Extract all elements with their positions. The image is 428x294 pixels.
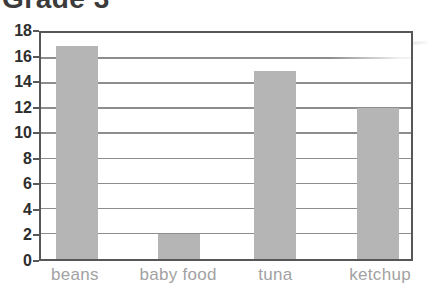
y-tick-mark-12 <box>33 107 39 109</box>
y-tick-mark-14 <box>33 81 39 83</box>
y-tick-label-8: 8 <box>0 151 32 167</box>
y-tick-label-12: 12 <box>0 100 32 116</box>
y-tick-mark-6 <box>33 183 39 185</box>
y-tick-label-18: 18 <box>0 23 32 39</box>
y-tick-mark-2 <box>33 234 39 236</box>
y-tick-label-0: 0 <box>0 253 32 269</box>
y-tick-mark-4 <box>33 209 39 211</box>
y-tick-label-6: 6 <box>0 176 32 192</box>
y-tick-label-2: 2 <box>0 227 32 243</box>
y-tick-mark-18 <box>33 30 39 32</box>
y-tick-label-10: 10 <box>0 125 32 141</box>
y-tick-label-16: 16 <box>0 49 32 65</box>
x-category-label-beans: beans <box>51 265 99 285</box>
bar-baby-food <box>158 234 200 259</box>
y-tick-label-14: 14 <box>0 74 32 90</box>
y-tick-mark-10 <box>33 132 39 134</box>
plot-area <box>39 31 413 261</box>
x-category-label-ketchup: ketchup <box>349 265 411 285</box>
bar-ketchup <box>357 108 399 259</box>
y-tick-mark-8 <box>33 158 39 160</box>
bar-tuna <box>254 71 296 259</box>
chart-title: Grade 3 <box>2 0 222 8</box>
y-tick-label-4: 4 <box>0 202 32 218</box>
x-category-label-baby-food: baby food <box>139 265 216 285</box>
x-category-label-tuna: tuna <box>258 265 292 285</box>
bar-beans <box>56 46 98 259</box>
y-tick-mark-0 <box>33 260 39 262</box>
chart-title-cropped-region: Grade 3 <box>2 0 222 8</box>
y-tick-mark-16 <box>33 56 39 58</box>
worksheet-bar-chart-page: Grade 3 181614121086420 beansbaby foodtu… <box>0 0 428 294</box>
